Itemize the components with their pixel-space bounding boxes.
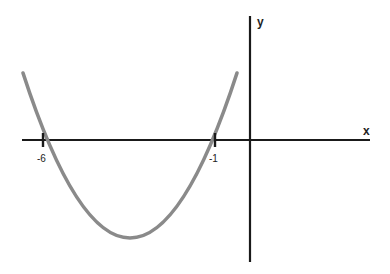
- parabola-curve: [23, 73, 237, 238]
- tick-label-neg1: -1: [209, 153, 218, 164]
- tick-label-neg6: -6: [37, 153, 46, 164]
- parabola-graph: -6 -1 x y: [0, 0, 390, 274]
- x-axis-label: x: [363, 124, 370, 138]
- y-axis-label: y: [257, 15, 264, 29]
